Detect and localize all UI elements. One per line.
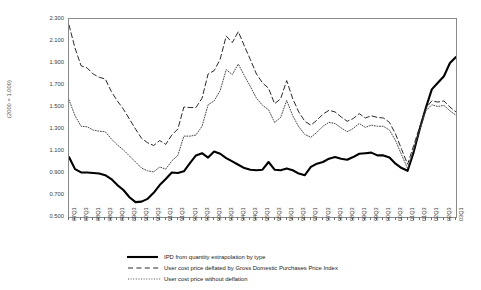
x-axis-tick-label: 95Q3 — [276, 195, 282, 221]
x-axis-tick-label: 96Q3 — [300, 195, 306, 221]
y-axis-tick-label: 1.100 — [30, 147, 64, 153]
x-axis-tick-mark — [395, 217, 396, 220]
x-axis-tick-label: 87Q3 — [83, 195, 89, 221]
x-axis-tick-mark — [177, 217, 178, 220]
x-axis-tick-mark — [298, 217, 299, 220]
legend-item-label: IPD from quantity extrapolation by type — [163, 253, 266, 261]
series-line — [69, 25, 456, 164]
x-axis-tick-mark — [382, 217, 383, 220]
y-axis-tick-label: 1.500 — [30, 103, 64, 109]
x-axis-tick-mark — [431, 217, 432, 220]
x-axis-tick-label: 97Q3 — [325, 195, 331, 221]
x-axis-tick-mark — [104, 217, 105, 220]
x-axis-tick-mark — [116, 217, 117, 220]
series-line — [69, 64, 456, 172]
x-axis-tick-label: 91Q3 — [179, 195, 185, 221]
x-axis-tick-mark — [274, 217, 275, 220]
y-axis-tick-label: 1.900 — [30, 59, 64, 65]
legend-item[interactable]: User cost price without deflation — [127, 274, 427, 284]
x-axis-tick-mark — [310, 217, 311, 220]
legend-line-swatch — [127, 264, 163, 272]
x-axis-tick-label: 99Q3 — [373, 195, 379, 221]
x-axis-tick-mark — [68, 217, 69, 220]
x-axis-tick-mark — [443, 217, 444, 220]
chart-legend: IPD from quantity extrapolation by typeU… — [127, 252, 427, 285]
y-axis-title: (2000 = 1.000) — [6, 64, 12, 134]
x-axis-tick-mark — [237, 217, 238, 220]
x-axis-tick-mark — [407, 217, 408, 220]
x-axis-tick-label: 01Q1 — [409, 195, 415, 221]
x-axis-tick-mark — [262, 217, 263, 220]
x-axis-tick-mark — [346, 217, 347, 220]
y-axis-tick-label: 0.900 — [30, 169, 64, 175]
x-axis-tick-mark — [358, 217, 359, 220]
legend-item[interactable]: IPD from quantity extrapolation by type — [127, 252, 427, 262]
x-axis-tick-mark — [141, 217, 142, 220]
x-axis-tick-label: 94Q3 — [252, 195, 258, 221]
x-axis-tick-mark — [225, 217, 226, 220]
x-axis-tick-label: 90Q3 — [155, 195, 161, 221]
legend-item-label: User cost price deflated by Gross Domest… — [163, 264, 338, 272]
y-axis-tick-label: 1.300 — [30, 125, 64, 131]
x-axis-tick-mark — [92, 217, 93, 220]
x-axis-tick-mark — [322, 217, 323, 220]
x-axis-tick-label: 90Q1 — [143, 195, 149, 221]
x-axis-tick-label: 91Q1 — [167, 195, 173, 221]
x-axis-tick-label: 88Q3 — [107, 195, 113, 221]
y-axis-tick-label: 0.500 — [30, 213, 64, 219]
x-axis-tick-mark — [213, 217, 214, 220]
x-axis-tick-label: 01Q3 — [421, 195, 427, 221]
y-axis-tick-label: 2.300 — [30, 15, 64, 21]
x-axis-tick-label: 94Q1 — [240, 195, 246, 221]
x-axis-tick-label: 00Q3 — [397, 195, 403, 221]
x-axis-tick-label: 93Q3 — [228, 195, 234, 221]
x-axis-tick-label: 97Q1 — [312, 195, 318, 221]
series-line — [69, 57, 456, 202]
x-axis-tick-mark — [80, 217, 81, 220]
x-axis-tick-mark — [419, 217, 420, 220]
x-axis-tick-mark — [189, 217, 190, 220]
x-axis-tick-label: 02Q3 — [446, 195, 452, 221]
y-axis-tick-labels: 2.3002.1001.9001.7001.5001.3001.1000.900… — [26, 0, 64, 290]
x-axis-tick-mark — [249, 217, 250, 220]
chart-figure: (2000 = 1.000) 2.3002.1001.9001.7001.500… — [0, 0, 481, 290]
x-axis-tick-label: 95Q1 — [264, 195, 270, 221]
series-canvas — [69, 19, 456, 217]
x-axis-tick-mark — [201, 217, 202, 220]
x-axis-tick-label: 03Q1 — [458, 195, 464, 221]
x-axis-tick-label: 98Q1 — [337, 195, 343, 221]
x-axis-tick-mark — [128, 217, 129, 220]
x-axis-tick-label: 89Q3 — [131, 195, 137, 221]
legend-item-label: User cost price without deflation — [163, 275, 248, 283]
plot-area — [68, 18, 457, 218]
x-axis-tick-label: 87Q1 — [71, 195, 77, 221]
x-axis-tick-mark — [153, 217, 154, 220]
x-axis-tick-label: 96Q1 — [288, 195, 294, 221]
x-axis-tick-label: 99Q1 — [361, 195, 367, 221]
x-axis-tick-label: 88Q1 — [95, 195, 101, 221]
x-axis-tick-label: 02Q1 — [433, 195, 439, 221]
x-axis-tick-mark — [286, 217, 287, 220]
x-axis-tick-mark — [370, 217, 371, 220]
legend-item[interactable]: User cost price deflated by Gross Domest… — [127, 263, 427, 273]
x-axis-tick-label: 00Q1 — [385, 195, 391, 221]
x-axis-tick-label: 92Q1 — [192, 195, 198, 221]
legend-line-swatch — [127, 253, 163, 261]
legend-line-swatch — [127, 275, 163, 283]
x-axis-tick-label: 92Q3 — [204, 195, 210, 221]
x-axis-tick-mark — [455, 217, 456, 220]
x-axis-tick-label: 89Q1 — [119, 195, 125, 221]
x-axis-tick-mark — [165, 217, 166, 220]
x-axis-tick-label: 98Q3 — [349, 195, 355, 221]
x-axis-tick-mark — [334, 217, 335, 220]
y-axis-tick-label: 1.700 — [30, 81, 64, 87]
y-axis-tick-label: 2.100 — [30, 37, 64, 43]
x-axis-tick-label: 93Q1 — [216, 195, 222, 221]
y-axis-tick-label: 0.700 — [30, 191, 64, 197]
